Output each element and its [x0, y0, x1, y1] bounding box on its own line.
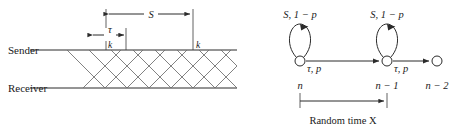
self-loop-label-above-n1: S, 1 − p: [370, 9, 403, 20]
segment-label-k-right: k: [196, 40, 201, 50]
hatch-line: [215, 50, 253, 88]
state-label-n-minus-1: n − 1: [376, 80, 399, 91]
state-node-n-minus-2[interactable]: [432, 56, 442, 66]
left-panel-group: S τ k k Sender Receiver: [8, 7, 259, 94]
hatch-line: [149, 50, 187, 88]
hatch-line: [199, 50, 237, 88]
hatch-line: [127, 50, 165, 88]
self-loop-n: [289, 24, 310, 58]
hatch-line: [193, 50, 231, 88]
hatch-line: [221, 50, 259, 88]
hatch-line: [89, 50, 127, 88]
hatch-line: [67, 50, 105, 88]
row-label-sender: Sender: [8, 44, 39, 56]
row-label-receiver: Receiver: [8, 82, 47, 94]
dimension-label-S: S: [148, 9, 154, 20]
hatch-line: [133, 50, 171, 88]
state-node-n-minus-1[interactable]: [382, 56, 392, 66]
self-loop-label-above-n: S, 1 − p: [283, 9, 316, 20]
crosshatch-descending-group: [67, 50, 259, 88]
hatch-line: [171, 50, 209, 88]
self-loop-label-below-n: τ, p: [307, 63, 321, 74]
self-loop-n1: [376, 24, 397, 58]
state-node-n[interactable]: [295, 56, 305, 66]
figure-canvas: S τ k k Sender Receiver: [0, 0, 461, 128]
state-label-n-minus-2: n − 2: [426, 80, 450, 91]
hatch-line: [111, 50, 149, 88]
measurement-label-random-time: Random time X: [309, 115, 376, 126]
segment-label-k-left: k: [108, 40, 113, 50]
self-loop-label-below-n1: τ, p: [394, 63, 408, 74]
right-panel-group: S, 1 − p S, 1 − p τ, p τ, p n n − 1 n − …: [283, 9, 449, 126]
hatch-line: [177, 50, 215, 88]
hatch-line: [155, 50, 193, 88]
figure-root: S τ k k Sender Receiver: [0, 0, 461, 128]
hatch-line: [105, 50, 143, 88]
state-label-n: n: [297, 80, 302, 91]
hatch-line: [83, 50, 121, 88]
